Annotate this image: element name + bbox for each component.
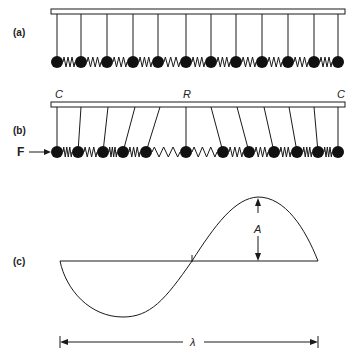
pendulum-string: [211, 107, 223, 152]
spring: [229, 147, 243, 157]
force-arrow: [29, 149, 51, 155]
panel-c: (c) A λ: [13, 197, 318, 348]
pendulum-bob: [117, 146, 129, 158]
pendulum-bob: [312, 146, 324, 158]
spring: [63, 147, 72, 157]
panel-b-label: (b): [13, 125, 26, 136]
panel-b: C R C (b) F: [13, 88, 345, 159]
pendulum-wave-diagram: (a) C R C (b) F (c) A: [0, 0, 358, 360]
pendulum-row-b: [51, 107, 344, 158]
pendulum-bob: [51, 146, 63, 158]
pendulum-bob: [332, 56, 344, 68]
force-label: F: [17, 145, 24, 159]
spring: [268, 57, 282, 67]
spring: [139, 57, 152, 67]
spring: [242, 57, 256, 67]
spring: [217, 57, 230, 67]
pendulum-bob: [217, 146, 229, 158]
pendulum-bob: [205, 56, 217, 68]
pendulum-bob: [101, 56, 113, 68]
pendulum-string: [314, 107, 318, 152]
pendulum-string: [103, 107, 108, 152]
spring: [280, 147, 291, 157]
pendulum-bob: [230, 56, 242, 68]
pendulum-bob: [152, 56, 164, 68]
pendulum-bob: [282, 56, 294, 68]
pendulum-bob: [268, 146, 280, 158]
pendulum-bob: [308, 56, 320, 68]
panel-a: (a): [13, 9, 345, 68]
pendulum-bob: [291, 146, 303, 158]
sine-wave: [60, 197, 318, 317]
wavelength-label: λ: [189, 336, 195, 348]
pendulum-bob: [180, 146, 192, 158]
amplitude-label: A: [253, 223, 261, 235]
pendulum-string: [123, 107, 135, 152]
panel-a-label: (a): [13, 27, 25, 38]
spring: [164, 57, 180, 67]
spring: [129, 147, 140, 157]
panel-c-label: (c): [13, 256, 25, 267]
compression-label-left: C: [55, 88, 63, 100]
pendulum-bob: [72, 146, 84, 158]
spring: [152, 147, 180, 157]
pendulum-string: [237, 107, 249, 152]
spring: [324, 147, 332, 157]
compression-label-right: C: [337, 88, 345, 100]
pendulum-bob: [256, 56, 268, 68]
pendulum-bob: [127, 56, 139, 68]
pendulum-bob: [97, 146, 109, 158]
spring: [87, 57, 101, 67]
pendulum-row-a: [51, 14, 344, 68]
support-bar-b: [51, 102, 345, 107]
pendulum-bob: [75, 56, 87, 68]
pendulum-bob: [51, 56, 63, 68]
pendulum-bob: [243, 146, 255, 158]
spring: [113, 57, 127, 67]
spring: [320, 57, 332, 67]
support-bar-a: [51, 9, 345, 14]
pendulum-bob: [180, 56, 192, 68]
pendulum-string: [78, 107, 81, 152]
spring: [63, 57, 75, 67]
rarefaction-label: R: [183, 88, 191, 100]
wavelength-arrow: [60, 336, 318, 348]
pendulum-bob: [332, 146, 344, 158]
pendulum-string: [146, 107, 160, 152]
spring: [294, 57, 308, 67]
pendulum-string: [289, 107, 297, 152]
spring: [84, 147, 97, 157]
spring: [255, 147, 268, 157]
pendulum-bob: [140, 146, 152, 158]
spring: [192, 147, 217, 157]
spring: [109, 147, 117, 157]
spring: [192, 57, 205, 67]
pendulum-string: [264, 107, 274, 152]
spring: [303, 147, 312, 157]
